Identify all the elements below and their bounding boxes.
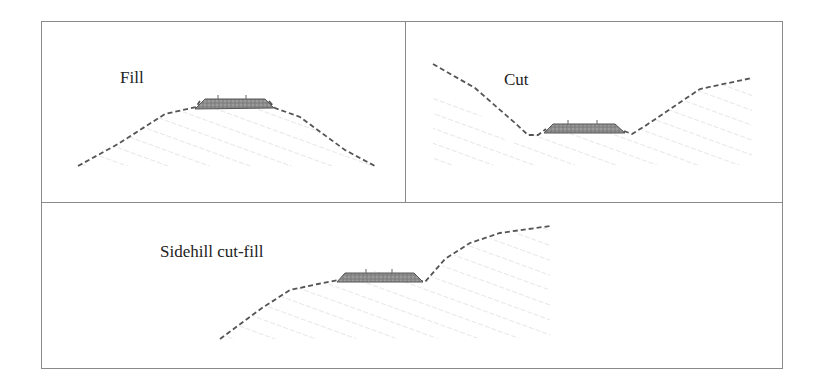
fill-section bbox=[78, 95, 375, 166]
sidehill-section bbox=[220, 226, 550, 339]
cross-section-drawings bbox=[0, 0, 824, 387]
sidehill-label: Sidehill cut-fill bbox=[160, 242, 263, 262]
cut-label: Cut bbox=[504, 70, 529, 90]
fill-label: Fill bbox=[120, 68, 144, 88]
cut-section bbox=[433, 64, 752, 165]
